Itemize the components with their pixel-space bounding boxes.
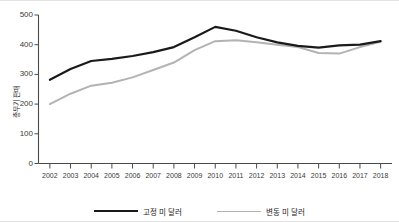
y-tick-label: 100 <box>5 129 33 138</box>
legend-swatch-variable <box>217 211 261 212</box>
series-line <box>50 40 381 104</box>
axis-lines <box>39 15 393 164</box>
line-chart: 총무기 판매 0100200300400500 2002200320042005… <box>0 0 399 222</box>
x-axis-ticks <box>50 164 381 169</box>
data-series-group <box>50 27 381 104</box>
plot-area <box>0 0 399 200</box>
y-tick-label: 400 <box>5 40 33 49</box>
legend-item-variable[interactable]: 변동 미 달러 <box>217 206 305 217</box>
legend-label-variable: 변동 미 달러 <box>266 206 305 217</box>
x-tick-label: 2018 <box>367 172 395 179</box>
legend-item-fixed[interactable]: 고정 미 달러 <box>94 206 182 217</box>
y-tick-label: 500 <box>5 10 33 19</box>
legend-swatch-fixed <box>94 210 138 212</box>
y-tick-label: 200 <box>5 99 33 108</box>
y-tick-label: 300 <box>5 69 33 78</box>
chart-legend: 고정 미 달러 변동 미 달러 <box>0 200 399 222</box>
y-tick-label: 0 <box>5 159 33 168</box>
y-axis-ticks <box>35 15 39 164</box>
legend-label-fixed: 고정 미 달러 <box>143 206 182 217</box>
